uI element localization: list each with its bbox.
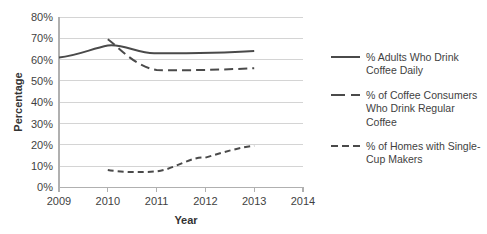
y-tick-label-30: 30% xyxy=(31,118,53,130)
chart-canvas: 80% 70% 60% 50% 40% 30% 20% 10% 0% 2009 … xyxy=(0,0,487,234)
chart-legend: % Adults Who Drink Coffee Daily % of Cof… xyxy=(331,51,481,166)
series-line-adults-drink-coffee-daily xyxy=(59,45,254,57)
y-tick-label-10: 10% xyxy=(31,160,53,172)
y-tick-label-80: 80% xyxy=(31,11,53,23)
x-axis-title: Year xyxy=(174,214,198,226)
legend-label-single-cup-makers-line1: % of Homes with Single- xyxy=(366,140,481,152)
legend-label-regular-coffee-consumers-line1: % of Coffee Consumers xyxy=(366,89,477,101)
y-tick-label-20: 20% xyxy=(31,139,53,151)
line-chart: 80% 70% 60% 50% 40% 30% 20% 10% 0% 2009 … xyxy=(0,0,487,234)
legend-label-regular-coffee-consumers-line2: Who Drink Regular xyxy=(366,102,455,114)
y-axis-title: Percentage xyxy=(12,72,24,131)
x-axis-tick-labels: 2009 2010 2011 2012 2013 2014 xyxy=(47,195,315,207)
x-tick-label-2010: 2010 xyxy=(96,195,120,207)
legend-label-regular-coffee-consumers-line3: Coffee xyxy=(366,116,397,128)
y-tick-label-50: 50% xyxy=(31,75,53,87)
legend-label-single-cup-makers-line2: Cup Makers xyxy=(366,153,423,165)
y-tick-label-0: 0% xyxy=(37,181,53,193)
x-tick-label-2012: 2012 xyxy=(193,195,217,207)
y-axis-tick-labels: 80% 70% 60% 50% 40% 30% 20% 10% 0% xyxy=(31,11,53,193)
gridlines xyxy=(59,17,303,166)
x-tick-label-2011: 2011 xyxy=(145,195,169,207)
y-tick-label-70: 70% xyxy=(31,32,53,44)
x-tick-label-2009: 2009 xyxy=(47,195,71,207)
y-tick-label-60: 60% xyxy=(31,54,53,66)
series-line-regular-coffee-consumers xyxy=(108,39,254,70)
y-tick-label-40: 40% xyxy=(31,96,53,108)
series-line-single-cup-makers xyxy=(108,146,254,172)
x-tick-label-2014: 2014 xyxy=(291,195,315,207)
x-tick-label-2013: 2013 xyxy=(242,195,266,207)
legend-label-adults-drink-coffee-daily-line2: Coffee Daily xyxy=(366,64,424,76)
legend-label-adults-drink-coffee-daily-line1: % Adults Who Drink xyxy=(366,51,460,63)
